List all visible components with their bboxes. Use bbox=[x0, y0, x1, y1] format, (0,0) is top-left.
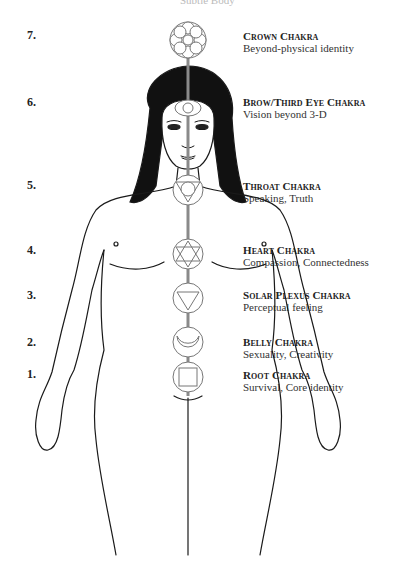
belly-chakra-crescent-icon bbox=[173, 327, 203, 357]
body-outline-left bbox=[36, 186, 176, 450]
crown-chakra-lotus-icon bbox=[170, 22, 206, 58]
waist-left bbox=[94, 250, 116, 555]
right-eye bbox=[196, 125, 208, 130]
throat-chakra-icon bbox=[173, 175, 203, 205]
waist-right bbox=[260, 250, 282, 555]
body-figure-illustration bbox=[0, 0, 399, 577]
root-chakra-square-icon bbox=[173, 362, 203, 392]
body-outline-right bbox=[200, 186, 340, 450]
solar-plexus-chakra-icon bbox=[173, 283, 203, 313]
left-eye bbox=[168, 125, 180, 130]
heart-chakra-hexagram-icon bbox=[173, 239, 203, 269]
brow-chakra-icon bbox=[175, 100, 201, 116]
